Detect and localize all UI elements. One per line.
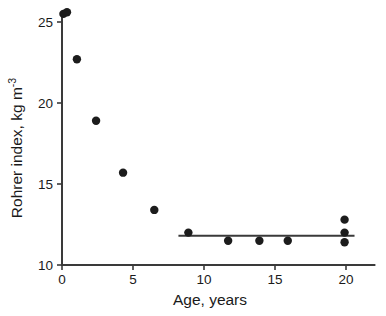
x-tick-label-5: 5 [129, 272, 137, 287]
x-axis-title: Age, years [173, 291, 247, 308]
x-tick-label-0: 0 [58, 272, 66, 287]
data-point [340, 228, 348, 236]
data-point [255, 237, 263, 245]
data-point [340, 215, 348, 223]
x-tick-label-15: 15 [267, 272, 282, 287]
y-tick-label-25: 25 [38, 15, 53, 30]
x-tick-label-20: 20 [338, 272, 353, 287]
y-axis-title: Rohrer index, kg m-3 [6, 78, 25, 218]
axes-group [62, 14, 374, 265]
data-point [340, 238, 348, 246]
x-tick-label-10: 10 [196, 272, 211, 287]
data-point [150, 206, 158, 214]
x-axis-tick-labels: 05101520 [58, 272, 353, 287]
data-point [73, 55, 81, 63]
data-point [119, 168, 127, 176]
data-point [284, 237, 292, 245]
y-axis-title-text: Rohrer index, kg m [8, 87, 25, 218]
data-point [184, 228, 192, 236]
y-tick-label-15: 15 [38, 177, 53, 192]
data-point [224, 237, 232, 245]
chart-figure: 10152025 05101520 Age, years Rohrer inde… [0, 0, 386, 316]
data-point [92, 117, 100, 125]
y-axis-tick-labels: 10152025 [38, 15, 53, 273]
y-tick-label-20: 20 [38, 96, 53, 111]
y-tick-label-10: 10 [38, 258, 53, 273]
y-axis-title-superscript: -3 [6, 78, 18, 87]
data-point [63, 8, 71, 16]
scatter-plot-svg: 10152025 05101520 Age, years Rohrer inde… [0, 0, 386, 316]
data-point-group [59, 8, 349, 246]
